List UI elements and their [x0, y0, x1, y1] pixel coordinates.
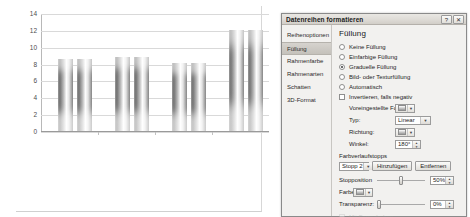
bar[interactable] — [115, 57, 130, 131]
gradient-stop-value: Stopp 2 — [342, 163, 363, 169]
nav-item-label: Schatten — [287, 84, 311, 90]
gradient-angle-stepper[interactable]: 180° ▲▼ — [395, 140, 421, 149]
stepper-arrows-icon[interactable]: ▲▼ — [445, 201, 453, 208]
fill-option-0[interactable]: Keine Füllung — [339, 42, 461, 52]
gradient-type-dropdown[interactable]: Linear ▼ — [395, 116, 431, 125]
bar[interactable] — [134, 57, 149, 131]
fill-option-3[interactable]: Bild- oder Texturfüllung — [339, 72, 461, 82]
y-axis-tick-label: 6 — [33, 78, 37, 85]
checkbox-icon[interactable] — [339, 94, 345, 100]
bar[interactable] — [229, 30, 244, 131]
stop-position-slider[interactable] — [377, 180, 425, 181]
nav-item-2[interactable]: Rahmenfarbe — [282, 55, 331, 68]
fill-option-1[interactable]: Einfarbige Füllung — [339, 52, 461, 62]
gradient-angle-label: Winkel: — [349, 141, 395, 147]
bar-group — [172, 13, 203, 131]
gradient-stops-label: Farbverlaufstopps — [339, 153, 461, 159]
nav-item-5[interactable]: 3D-Format — [282, 94, 331, 107]
bar[interactable] — [172, 63, 187, 131]
x-axis-tick — [212, 132, 213, 135]
stop-color-label: Farbe: — [339, 189, 353, 195]
preset-colors-label: Voreingestellte Farben: — [349, 105, 395, 111]
invert-if-negative-checkbox-row[interactable]: Invertieren, falls negativ — [339, 92, 461, 102]
help-icon[interactable]: ? — [441, 15, 452, 24]
radio-icon[interactable] — [339, 74, 345, 80]
gradient-type-label: Typ: — [349, 117, 395, 123]
close-icon[interactable]: ✕ — [453, 15, 464, 24]
dialog-titlebar[interactable]: Datenreihen formatieren ? ✕ — [282, 14, 466, 25]
nav-item-label: Rahmenarten — [287, 71, 323, 77]
stepper-arrows-icon[interactable]: ▲▼ — [445, 177, 453, 184]
format-data-series-dialog: Datenreihen formatieren ? ✕ Reihenoption… — [281, 13, 467, 217]
transparency-label: Transparenz: — [339, 201, 377, 207]
nav-item-0[interactable]: Reihenoptionen — [282, 29, 331, 42]
y-axis-tick-label: 12 — [30, 28, 37, 35]
bar-group — [58, 13, 89, 131]
radio-icon[interactable] — [339, 84, 345, 90]
transparency-slider[interactable] — [377, 204, 425, 205]
fill-option-radio-group: Keine FüllungEinfarbige FüllungGraduelle… — [339, 42, 461, 92]
stepper-arrows-icon[interactable]: ▲▼ — [412, 141, 420, 148]
y-axis-tick-label: 10 — [30, 44, 37, 51]
direction-preview-icon — [398, 129, 406, 135]
y-axis-tick-label: 14 — [30, 11, 37, 18]
preset-colors-dropdown[interactable]: ▼ — [395, 104, 415, 113]
radio-icon[interactable] — [339, 64, 345, 70]
gradient-angle-value: 180° — [396, 141, 412, 147]
rotate-with-shape-label: Mit Form drehen — [349, 214, 393, 217]
gradient-angle-row: Winkel: 180° ▲▼ — [349, 138, 461, 150]
transparency-stepper[interactable]: 0% ▲▼ — [430, 200, 454, 209]
chart-plot-area: 02468101214 — [41, 14, 269, 132]
nav-item-4[interactable]: Schatten — [282, 81, 331, 94]
chevron-down-icon: ▼ — [420, 117, 430, 124]
bar-group — [115, 13, 146, 131]
dialog-body: ReihenoptionenFüllungRahmenfarbeRahmenar… — [282, 25, 466, 216]
preset-colors-row: Voreingestellte Farben: ▼ — [349, 102, 461, 114]
y-axis-tick-label: 2 — [33, 112, 37, 119]
gradient-swatch-icon — [398, 105, 406, 111]
nav-item-1[interactable]: Füllung — [282, 42, 331, 55]
nav-item-label: Reihenoptionen — [287, 32, 329, 38]
bar[interactable] — [77, 59, 92, 131]
chevron-down-icon: ▼ — [365, 189, 372, 196]
radio-icon[interactable] — [339, 44, 345, 50]
transparency-value: 0% — [431, 201, 445, 207]
color-swatch-icon — [356, 189, 364, 195]
slider-thumb[interactable] — [399, 176, 403, 185]
slider-thumb[interactable] — [377, 200, 381, 209]
bar[interactable] — [191, 63, 206, 131]
fill-option-label: Bild- oder Texturfüllung — [349, 74, 410, 80]
remove-stop-button[interactable]: Entfernen — [415, 161, 451, 171]
gradient-direction-label: Richtung: — [349, 129, 395, 135]
bar[interactable] — [248, 30, 263, 131]
chevron-down-icon: ▼ — [407, 105, 414, 112]
dialog-title: Datenreihen formatieren — [286, 16, 440, 23]
dialog-content-pane: Füllung Keine FüllungEinfarbige FüllungG… — [332, 25, 466, 216]
transparency-row: Transparenz: 0% ▲▼ — [339, 198, 461, 210]
gradient-type-value: Linear — [398, 117, 420, 123]
fill-option-4[interactable]: Automatisch — [339, 82, 461, 92]
gradient-stop-dropdown[interactable]: Stopp 2 ▼ — [339, 162, 369, 171]
add-stop-button[interactable]: Hinzufügen — [372, 161, 412, 171]
stop-position-stepper[interactable]: 50% ▲▼ — [430, 176, 454, 185]
stop-position-label: Stopposition — [339, 177, 377, 183]
gradient-type-row: Typ: Linear ▼ — [349, 114, 461, 126]
checkbox-icon — [339, 214, 345, 217]
chart-panel: 02468101214 — [0, 0, 278, 217]
invert-if-negative-label: Invertieren, falls negativ — [349, 94, 412, 100]
stop-color-dropdown[interactable]: ▼ — [353, 188, 373, 197]
y-axis-tick-label: 4 — [33, 95, 37, 102]
x-axis-tick — [155, 132, 156, 135]
fill-option-label: Keine Füllung — [349, 44, 386, 50]
nav-item-3[interactable]: Rahmenarten — [282, 68, 331, 81]
nav-item-label: Rahmenfarbe — [287, 58, 323, 64]
dialog-nav-list: ReihenoptionenFüllungRahmenfarbeRahmenar… — [282, 25, 332, 216]
gradient-direction-row: Richtung: ▼ — [349, 126, 461, 138]
y-axis-tick-label: 0 — [33, 129, 37, 136]
gradient-stops-controls: Stopp 2 ▼ Hinzufügen Entfernen — [339, 161, 461, 171]
stop-position-row: Stopposition 50% ▲▼ — [339, 174, 461, 186]
gradient-direction-dropdown[interactable]: ▼ — [395, 128, 415, 137]
fill-option-2[interactable]: Graduelle Füllung — [339, 62, 461, 72]
radio-icon[interactable] — [339, 54, 345, 60]
bar[interactable] — [58, 59, 73, 131]
